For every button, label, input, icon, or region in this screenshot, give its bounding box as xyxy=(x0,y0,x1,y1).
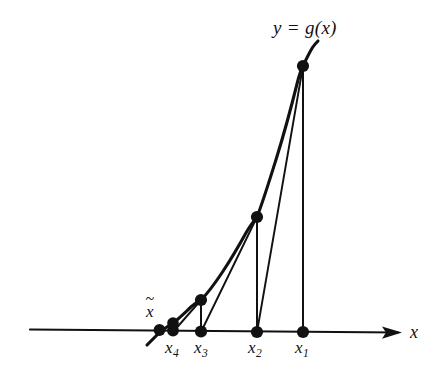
ordinate-segments-group xyxy=(201,66,303,332)
tick-label-x1-subscript: 1 xyxy=(303,347,309,359)
tick-label-x4-subscript: 4 xyxy=(173,347,179,359)
tick-label-x4: x4 xyxy=(165,339,178,356)
curve-point-dot-x1 xyxy=(297,60,309,72)
secant-line-x2-x3 xyxy=(201,217,257,332)
curve-point-dot-x3 xyxy=(195,294,207,306)
axis-point-dot-x1 xyxy=(297,326,309,338)
tick-label-x2-base: x xyxy=(248,338,256,357)
axis-point-dot-x2 xyxy=(251,326,263,338)
tick-label-x3: x3 xyxy=(194,339,207,356)
x-axis-group xyxy=(30,326,402,338)
tick-label-x1-base: x xyxy=(295,338,303,357)
axis-point-dot-x4 xyxy=(167,325,179,337)
tick-label-x3-subscript: 3 xyxy=(202,347,208,359)
x-axis-label: x xyxy=(410,323,418,341)
secant-method-figure: y = g(x) x ~ x x4 x3 x2 x1 xyxy=(0,0,434,385)
curve-point-dots-group xyxy=(167,60,309,329)
tick-label-x3-base: x xyxy=(194,338,202,357)
function-label: y = g(x) xyxy=(273,18,337,37)
x-axis-line xyxy=(30,330,398,333)
curve-point-dot-x2 xyxy=(251,211,263,223)
root-label-x-tilde: ~ x xyxy=(146,303,154,320)
tick-label-x4-base: x xyxy=(165,338,173,357)
figure-canvas xyxy=(0,0,434,385)
function-curve-gx xyxy=(147,41,318,345)
tilde-accent-icon: ~ xyxy=(146,291,155,307)
axis-point-dot-x3 xyxy=(195,325,207,337)
axis-point-dot-root xyxy=(154,324,166,336)
root-label-stack: ~ x xyxy=(146,303,154,320)
tick-label-x2-subscript: 2 xyxy=(256,347,262,359)
secant-lines-group xyxy=(173,66,303,332)
tick-label-x2: x2 xyxy=(248,339,261,356)
function-curve-group xyxy=(147,41,318,345)
tick-label-x1: x1 xyxy=(295,339,308,356)
